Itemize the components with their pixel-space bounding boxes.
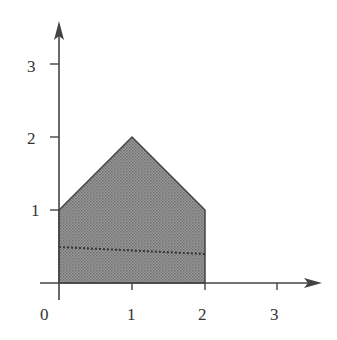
- x-tick-label-3: 3: [270, 305, 279, 324]
- chart-canvas: 0 1 2 3 1 2 3: [0, 0, 337, 340]
- y-tick-label-1: 1: [31, 201, 40, 220]
- x-tick-label-1: 1: [127, 305, 136, 324]
- x-tick-label-2: 2: [198, 305, 207, 324]
- shaded-region: [59, 137, 205, 283]
- y-tick-label-2: 2: [27, 129, 36, 148]
- y-tick-label-3: 3: [27, 57, 36, 76]
- origin-label: 0: [40, 305, 49, 324]
